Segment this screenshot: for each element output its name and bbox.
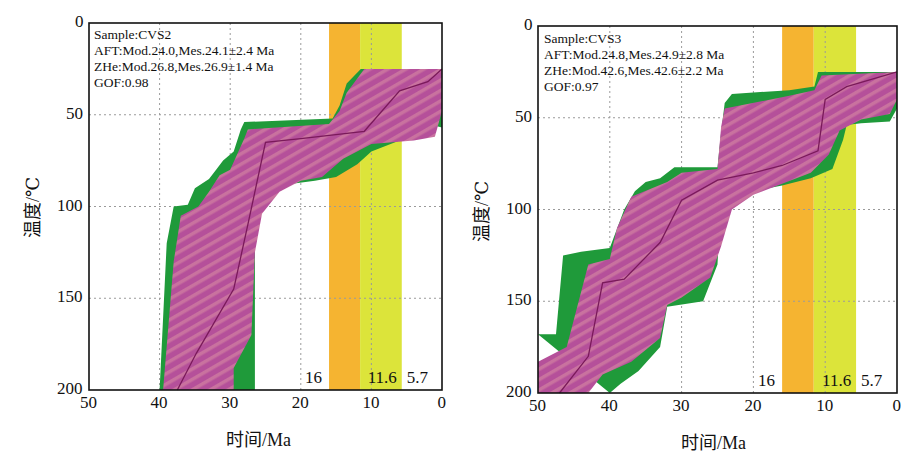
y-tick-label: 50 — [66, 104, 83, 124]
band-boundary-label: 11.6 — [368, 368, 397, 388]
y-axis-label: 温度/℃ — [18, 177, 44, 238]
band-boundary-label: 11.6 — [822, 371, 851, 391]
x-tick-label: 20 — [744, 396, 761, 416]
y-tick-label: 100 — [506, 199, 532, 219]
x-tick-label: 40 — [601, 396, 618, 416]
x-tick-label: 10 — [362, 393, 379, 413]
x-axis-label: 时间/Ma — [226, 425, 291, 451]
band-boundary-label: 5.7 — [407, 368, 428, 388]
aft-age: AFT:Mod.24.8,Mes.24.9±2.8 Ma — [544, 47, 724, 63]
x-tick-label: 50 — [529, 396, 546, 416]
sample-info: Sample:CVS2 AFT:Mod.24.0,Mes.24.1±2.4 Ma… — [94, 27, 274, 91]
y-tick-label: 0 — [524, 15, 533, 35]
band-boundary-label: 16 — [305, 368, 322, 388]
zhe-age: ZHe:Mod.26.8,Mes.26.9±1.4 Ma — [94, 59, 274, 75]
y-tick-label: 200 — [506, 382, 532, 402]
x-tick-label: 10 — [816, 396, 833, 416]
band-boundary-label: 5.7 — [861, 371, 882, 391]
band-boundary-label: 16 — [758, 371, 775, 391]
x-tick-label: 0 — [438, 393, 447, 413]
chart-cvs3: 温度/℃ 时间/Ma Sample:CVS3 AFT:Mod.24.8,Mes.… — [455, 0, 911, 455]
x-tick-label: 40 — [151, 393, 168, 413]
x-tick-label: 0 — [893, 396, 902, 416]
gof-value: GOF:0.97 — [544, 79, 724, 95]
y-tick-label: 150 — [506, 290, 532, 310]
x-tick-label: 30 — [221, 393, 238, 413]
aft-age: AFT:Mod.24.0,Mes.24.1±2.4 Ma — [94, 43, 274, 59]
x-tick-label: 30 — [673, 396, 690, 416]
x-tick-label: 20 — [292, 393, 309, 413]
x-tick-label: 50 — [80, 393, 97, 413]
x-axis-label: 时间/Ma — [681, 428, 746, 454]
y-tick-label: 50 — [515, 107, 532, 127]
y-tick-label: 100 — [57, 196, 83, 216]
zhe-age: ZHe:Mod.42.6,Mes.42.6±2.2 Ma — [544, 63, 724, 79]
y-tick-label: 0 — [75, 12, 84, 32]
y-tick-label: 200 — [57, 379, 83, 399]
y-axis-label: 温度/℃ — [467, 181, 493, 242]
sample-name: Sample:CVS2 — [94, 27, 274, 43]
y-tick-label: 150 — [57, 287, 83, 307]
chart-cvs2: 温度/℃ 时间/Ma Sample:CVS2 AFT:Mod.24.0,Mes.… — [0, 0, 455, 455]
gof-value: GOF:0.98 — [94, 75, 274, 91]
sample-info: Sample:CVS3 AFT:Mod.24.8,Mes.24.9±2.8 Ma… — [544, 31, 724, 95]
sample-name: Sample:CVS3 — [544, 31, 724, 47]
